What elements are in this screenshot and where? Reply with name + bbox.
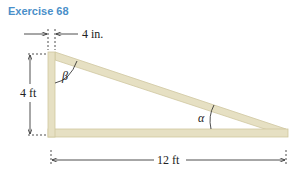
truss-diagram: 4 in. 4 ft 12 ft β α (0, 0, 302, 179)
top-width-label: 4 in. (82, 27, 103, 41)
diagonal-beam (55, 52, 286, 136)
beta-label: β (61, 69, 68, 83)
top-width-dimension (24, 29, 78, 50)
vertical-post (48, 52, 55, 137)
base-label: 12 ft (157, 153, 180, 167)
alpha-label: α (198, 111, 205, 125)
height-label: 4 ft (20, 86, 37, 100)
beams (48, 52, 288, 137)
bottom-beam (48, 129, 288, 137)
